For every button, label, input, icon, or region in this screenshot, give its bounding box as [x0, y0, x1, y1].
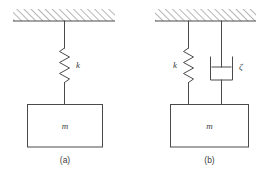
- spring-mass-diagram: k m (a) k: [0, 0, 266, 180]
- panel-caption-a: (a): [60, 155, 71, 165]
- spring-coil-b: [184, 48, 194, 83]
- spring-label-b: k: [173, 60, 178, 70]
- panel-a: k m (a): [13, 9, 115, 165]
- figure-container: k m (a) k: [0, 0, 266, 180]
- damper-label-b: ζ: [239, 62, 244, 72]
- hatch-fill-a: [13, 9, 115, 21]
- spring-label-a: k: [76, 60, 81, 70]
- hatch-fill-b: [155, 9, 256, 21]
- ceiling-support-b: [155, 9, 256, 21]
- mass-label-b: m: [206, 121, 213, 131]
- panel-caption-b: (b): [204, 155, 215, 165]
- ceiling-support-a: [13, 9, 115, 21]
- mass-label-a: m: [62, 121, 69, 131]
- panel-b: k ζ m (b): [155, 9, 256, 165]
- spring-coil-a: [60, 48, 70, 83]
